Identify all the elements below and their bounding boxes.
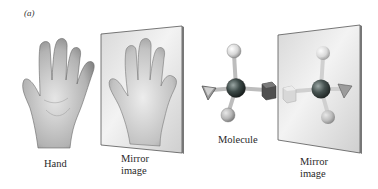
- hand-mirror-icon: [101, 26, 184, 154]
- molecule-mirror-label-line1: Mirror: [300, 156, 328, 168]
- molecule-mirror-label-line2: image: [300, 168, 328, 180]
- hand-mirror-label-line2: image: [121, 165, 149, 177]
- molecule-label: Molecule: [218, 134, 258, 146]
- chirality-figure: (a) Hand Mirror image Molecule Mirror im…: [0, 0, 378, 189]
- molecule-mirror-label: Mirror image: [300, 156, 328, 180]
- panel-label: (a): [24, 8, 35, 18]
- hand-label: Hand: [44, 158, 67, 170]
- hand-mirror-label: Mirror image: [121, 153, 149, 177]
- hand-icon: [23, 38, 95, 148]
- molecule-mirror-icon: [278, 25, 362, 154]
- molecule-icon: [202, 44, 276, 122]
- hand-mirror-label-line1: Mirror: [121, 153, 149, 165]
